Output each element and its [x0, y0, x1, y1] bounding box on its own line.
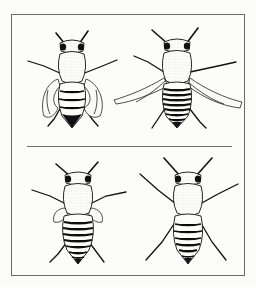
fly-illustration-icon	[108, 22, 248, 134]
fly-illustration-icon	[22, 24, 122, 134]
fly-illustration-icon	[134, 152, 242, 270]
fly-top-right-spread-wings	[108, 22, 248, 134]
fly-top-left-crumpled-wings	[22, 24, 122, 134]
fly-illustration-icon	[26, 154, 130, 269]
fly-bottom-right-wingless	[134, 152, 242, 270]
row-divider-line	[27, 146, 232, 147]
fly-bottom-left-short-wings	[26, 154, 130, 269]
